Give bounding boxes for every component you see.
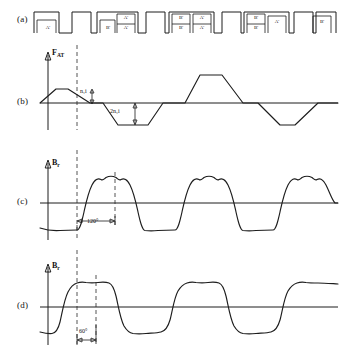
slot-label-7-bottom: A' [195,25,209,30]
slot-label-6-bottom: B' [174,25,188,30]
slot-label-7-top: A' [195,15,209,20]
span-dimension-60 [77,325,96,344]
mmf-step-dimension [90,89,94,104]
slot-label-3-bottom: B' [101,25,115,30]
mmf-waveform [40,75,338,125]
slot-label-12-top: B' [315,19,329,24]
mmf-axes [40,52,338,130]
slot-label-1-bottom: A' [41,25,55,30]
flux-density-waveform-d [40,282,338,334]
figure-canvas: (a) (b) (c) (d) FAT Br Br n₁i 2n₁i 120° … [0,0,342,355]
mmf-double-step-dimension [133,103,137,125]
slot-label-4-top: A' [119,15,133,20]
flux-c-axes [40,160,338,240]
slot-label-10-top: A' [270,19,284,24]
slot-label-4-bottom: A' [119,25,133,30]
diagram-vector-layer [0,0,342,355]
slot-label-9-top: B' [249,15,263,20]
slot-label-6-top: B' [174,15,188,20]
slot-label-9-bottom: B' [249,25,263,30]
flux-density-waveform-c [40,176,338,231]
flux-d-axes [40,264,338,345]
